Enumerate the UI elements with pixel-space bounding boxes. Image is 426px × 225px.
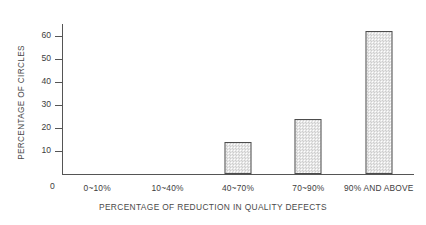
bar-slot [203,24,273,174]
y-axis-origin-label: 0 [50,181,55,191]
bar-slot [62,24,132,174]
plot-area: 102030405060 [62,24,414,175]
y-axis-tick-label: 10 [41,144,51,157]
y-axis-title: PERCENTAGE OF CIRCLES [14,15,30,190]
bar-series [62,24,414,175]
x-axis-title: PERCENTAGE OF REDUCTION IN QUALITY DEFEC… [0,202,426,212]
y-axis-tick-label: 30 [41,98,51,111]
bar [224,142,251,174]
y-axis-tick-label: 60 [41,29,51,42]
bar-chart: PERCENTAGE OF CIRCLES 0 102030405060 0~1… [0,0,426,225]
x-axis-category-label: 70~90% [273,183,343,193]
y-axis-tick-label: 20 [41,121,51,134]
x-axis-category-label: 10~40% [132,183,202,193]
bar-slot [132,24,202,174]
y-axis-tick-label: 50 [41,52,51,65]
bar-slot [273,24,343,174]
y-axis-tick-label: 40 [41,75,51,88]
bar [365,31,392,174]
x-axis-category-label: 40~70% [203,183,273,193]
bar [295,119,322,174]
x-axis-category-label: 90% AND ABOVE [344,183,414,193]
bar-slot [344,24,414,174]
x-axis-category-label: 0~10% [62,183,132,193]
